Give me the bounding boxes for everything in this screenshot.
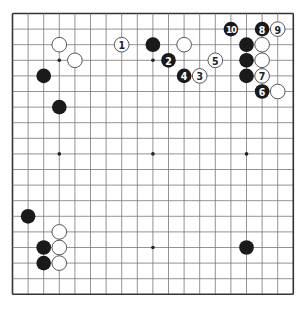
black-stone: 6 [255,84,270,99]
white-stone [270,84,285,99]
white-stone [52,240,67,255]
star-point [151,246,155,250]
move-number-label: 8 [259,24,266,36]
black-stone [36,69,51,84]
black-stone [239,37,254,52]
move-number-label: 4 [181,70,188,82]
white-stone [52,256,67,271]
white-stone [255,53,270,68]
white-stone [52,225,67,240]
star-point [151,59,155,63]
white-stone [255,37,270,52]
white-stone: 7 [255,69,270,84]
star-point [58,59,62,63]
black-stone [239,240,254,255]
move-number-label: 9 [274,24,281,36]
white-stone: 3 [192,69,207,84]
move-number-label: 7 [259,70,266,82]
black-stone [21,209,36,224]
white-stone [52,37,67,52]
go-board: 12345678910 [0,0,301,310]
star-point [245,152,249,156]
white-stone [177,37,192,52]
white-stone: 5 [208,53,223,68]
black-stone: 10 [224,22,239,37]
black-stone [146,37,161,52]
black-stone: 4 [177,69,192,84]
black-stone [239,53,254,68]
black-stone: 8 [255,22,270,37]
star-point [151,152,155,156]
move-number-label: 10 [226,24,237,35]
black-stone [36,256,51,271]
move-number-label: 2 [165,55,172,67]
white-stone [68,53,83,68]
move-number-label: 3 [196,70,203,82]
star-point [58,152,62,156]
black-stone [36,240,51,255]
move-number-label: 1 [118,39,125,51]
move-number-label: 6 [259,86,266,98]
move-number-label: 5 [212,55,219,67]
white-stone: 9 [270,22,285,37]
white-stone: 1 [114,37,129,52]
black-stone [52,100,67,115]
black-stone: 2 [161,53,176,68]
black-stone [239,69,254,84]
